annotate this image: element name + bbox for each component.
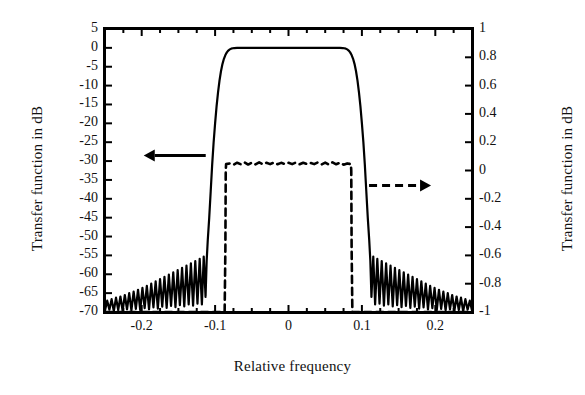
y-tick-label-left: -25 xyxy=(46,133,98,149)
y-tick-label-right: -0.4 xyxy=(479,218,533,234)
y-axis-right-title: Transfer function in dB xyxy=(559,64,576,294)
axis-arrow-annotations xyxy=(144,149,431,191)
y-tick-label-right: 0.6 xyxy=(479,77,533,93)
y-tick-label-left: -65 xyxy=(46,284,98,300)
x-tick-label: 0 xyxy=(259,318,319,334)
y-tick-label-left: -30 xyxy=(46,152,98,168)
y-tick-label-right: 0.2 xyxy=(479,133,533,149)
y-tick-label-right: -0.2 xyxy=(479,190,533,206)
series-magnitude-response-dB xyxy=(105,48,472,311)
y-tick-label-right: 0.8 xyxy=(479,48,533,64)
y-tick-label-left: -70 xyxy=(46,303,98,319)
y-tick-label-left: -35 xyxy=(46,171,98,187)
x-axis-title: Relative frequency xyxy=(0,358,585,375)
chart-figure: Transfer function in dB Transfer functio… xyxy=(0,0,585,395)
y-tick-label-left: -60 xyxy=(46,265,98,281)
y-tick-label-left: -10 xyxy=(46,77,98,93)
y-tick-label-right: 1 xyxy=(479,20,533,36)
x-tick-label: 0.2 xyxy=(405,318,465,334)
y-axis-left-title: Transfer function in dB xyxy=(29,64,46,294)
y-tick-label-left: -50 xyxy=(46,228,98,244)
x-tick-label: -0.2 xyxy=(112,318,172,334)
right-axis-arrow-head xyxy=(420,180,431,192)
y-tick-label-left: -40 xyxy=(46,190,98,206)
y-tick-label-right: -0.8 xyxy=(479,275,533,291)
y-tick-label-left: -20 xyxy=(46,114,98,130)
y-tick-label-left: -15 xyxy=(46,95,98,111)
y-tick-label-right: -1 xyxy=(479,303,533,319)
y-tick-label-left: 0 xyxy=(46,39,98,55)
x-tick-label: 0.1 xyxy=(332,318,392,334)
left-axis-arrow-head xyxy=(144,149,155,161)
y-tick-label-right: -0.6 xyxy=(479,246,533,262)
data-series xyxy=(105,48,472,312)
y-tick-label-left: -5 xyxy=(46,58,98,74)
y-tick-label-right: 0 xyxy=(479,162,533,178)
x-tick-label: -0.1 xyxy=(185,318,245,334)
y-tick-label-left: -45 xyxy=(46,209,98,225)
y-tick-label-left: 5 xyxy=(46,20,98,36)
y-tick-label-left: -55 xyxy=(46,246,98,262)
axis-ticks xyxy=(105,29,472,312)
plot-frame xyxy=(105,29,473,313)
y-tick-label-right: 0.4 xyxy=(479,105,533,121)
